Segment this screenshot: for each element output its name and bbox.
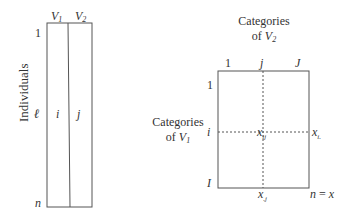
left-title-line2: of V1 [166, 130, 190, 145]
row-label-middle: ℓ [34, 106, 40, 121]
cell-value-i: i [56, 107, 59, 121]
contingency-diagram: V1 V2 1 ℓ n i j Individuals Categories o… [0, 0, 359, 217]
column-label-middle: j [258, 56, 264, 70]
row-label-middle: i [207, 125, 210, 139]
column-label-first: 1 [225, 56, 231, 70]
column-header-v1: V1 [51, 9, 62, 24]
column-margin-xj: x.j [257, 187, 267, 203]
column-label-last: J [295, 56, 301, 70]
top-title-line1: Categories [238, 14, 290, 28]
cell-value-xij: xij [256, 125, 266, 141]
left-title-line1: Categories [152, 115, 204, 129]
row-margin-xi: xi. [311, 125, 321, 141]
row-label-first: 1 [35, 26, 41, 40]
row-label-last: I [206, 176, 212, 190]
row-label-last: n [35, 196, 41, 210]
grand-total: n = x [310, 187, 335, 201]
column-header-v2: V2 [75, 9, 86, 24]
individuals-table: V1 V2 1 ℓ n i j Individuals [16, 9, 92, 210]
top-title-line2: of V2 [252, 29, 276, 44]
axis-label-individuals: Individuals [16, 64, 31, 123]
contingency-table: Categories of V2 Categories of V1 1 j J … [152, 14, 334, 203]
row-label-first: 1 [207, 78, 213, 92]
cell-value-j: j [75, 107, 81, 121]
column-divider [68, 23, 70, 207]
